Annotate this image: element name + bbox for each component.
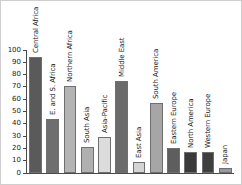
- bar: [46, 119, 59, 173]
- bar-label: Western Europe: [205, 94, 212, 148]
- bar-group: Eastern Europe: [167, 40, 180, 173]
- y-tick-mark: [23, 50, 26, 51]
- bar-group: North America: [184, 40, 197, 173]
- bar-label: East Asia: [136, 127, 143, 158]
- y-tick-mark: [23, 136, 26, 137]
- bar-label: Japan: [222, 145, 229, 164]
- bar-group: East Asia: [133, 40, 146, 173]
- bar: [219, 168, 232, 173]
- y-tick-mark: [23, 160, 26, 161]
- y-tick-mark: [23, 62, 26, 63]
- y-tick-label: 60: [12, 96, 23, 103]
- y-tick-label: 100: [8, 47, 23, 54]
- y-tick-label: 80: [12, 71, 23, 78]
- y-tick-label: 90: [12, 59, 23, 66]
- bar: [167, 148, 180, 173]
- bar-group: Western Europe: [202, 40, 215, 173]
- plot-area: Central AfricaE. and S. AfricaNorthern A…: [27, 41, 234, 174]
- y-tick-mark: [23, 99, 26, 100]
- y-tick-mark: [23, 148, 26, 149]
- bar-label: South Asia: [84, 107, 91, 143]
- y-tick-mark: [23, 173, 26, 174]
- y-tick-label: 30: [12, 133, 23, 140]
- y-tick-mark: [23, 111, 26, 112]
- bar: [115, 81, 128, 173]
- y-tick-label: 10: [12, 157, 23, 164]
- bar-label: Middle East: [118, 37, 125, 76]
- bar-group: E. and S. Africa: [46, 40, 59, 173]
- y-tick-mark: [23, 123, 26, 124]
- bar-group: Asia-Pacific: [98, 40, 111, 173]
- bar-label: E. and S. Africa: [49, 63, 56, 115]
- bar: [202, 152, 215, 173]
- bar-group: Middle East: [115, 40, 128, 173]
- bar-label: North America: [187, 99, 194, 148]
- bar-label: Central Africa: [32, 7, 39, 53]
- bar: [29, 57, 42, 173]
- bar-group: South Asia: [81, 40, 94, 173]
- y-tick-mark: [23, 74, 26, 75]
- y-tick-label: 50: [12, 108, 23, 115]
- y-tick-label: 70: [12, 83, 23, 90]
- y-tick-mark: [23, 86, 26, 87]
- y-tick-label: 20: [12, 145, 23, 152]
- bar-label: Asia-Pacific: [101, 95, 108, 133]
- bar-group: Northern Africa: [64, 40, 77, 173]
- bar-group: Japan: [219, 40, 232, 173]
- bar: [184, 152, 197, 173]
- bar-chart: 0102030405060708090100 Central AfricaE. …: [0, 0, 242, 185]
- y-tick-label: 40: [12, 120, 23, 127]
- bar-label: Northern Africa: [67, 30, 74, 82]
- bar-group: Central Africa: [29, 40, 42, 173]
- bar: [81, 147, 94, 173]
- bar: [133, 162, 146, 173]
- bar-label: South America: [153, 49, 160, 99]
- bar-group: South America: [150, 40, 163, 173]
- bar-label: Eastern Europe: [170, 92, 177, 144]
- bar: [64, 86, 77, 173]
- bar: [150, 103, 163, 173]
- bar: [98, 137, 111, 173]
